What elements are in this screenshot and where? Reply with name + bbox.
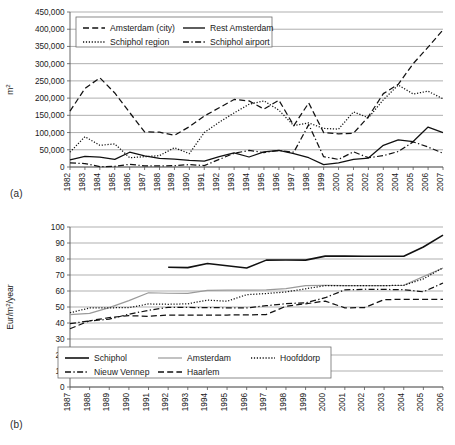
x-axis-tick-label: 2003 (376, 173, 385, 192)
x-axis-tick-label: 1994 (242, 173, 251, 192)
x-axis-tick-label: 2002 (357, 393, 366, 412)
x-axis-tick-label: 1992 (212, 173, 221, 192)
y-axis-tick-label: 100 (51, 223, 65, 232)
y-axis-tick-label: 100,000 (35, 129, 65, 138)
series-line-nieuw-vennep (70, 283, 443, 324)
panel-a-label: (a) (10, 188, 23, 199)
series-line-schiphol-airport (70, 125, 443, 167)
y-axis-tick-label: 30 (55, 335, 65, 344)
y-axis-tick-label: 0 (60, 383, 65, 392)
chart-panel-a: 050,000100,000150,000200,000250,000300,0… (0, 0, 455, 215)
legend-label: Schiphol airport (210, 37, 270, 47)
legend-label: Schiphol region (110, 37, 169, 47)
legend-label: Rest Amsterdam (210, 23, 274, 33)
x-axis-tick-label: 1994 (200, 393, 209, 412)
x-axis-tick-label: 1989 (167, 173, 176, 192)
x-axis-tick-label: 1987 (63, 393, 72, 412)
x-axis-tick-label: 1995 (220, 393, 229, 412)
svg-text:Eur/m2/year: Eur/m2/year (4, 284, 15, 330)
x-axis-tick-label: 1983 (78, 173, 87, 192)
y-axis-tick-label: 400,000 (35, 25, 65, 34)
x-axis-tick-label: 1982 (63, 173, 72, 192)
y-axis-tick-label: 150,000 (35, 111, 65, 120)
y-axis-tick-label: 300,000 (35, 60, 65, 69)
x-axis-tick-label: 1984 (93, 173, 102, 192)
x-axis-tick-label: 1990 (182, 173, 191, 192)
x-axis-tick-label: 1989 (102, 393, 111, 412)
y-axis-title: Eur/m2/year (4, 284, 15, 330)
y-axis-title: m2 (4, 84, 15, 95)
chart-a-legend: Amsterdam (city)Rest AmsterdamSchiphol r… (76, 17, 274, 47)
x-axis-tick-label: 1992 (161, 393, 170, 412)
legend-label: Nieuw Vennep (94, 367, 150, 377)
x-axis-tick-label: 2006 (421, 173, 430, 192)
chart-b-legend: SchipholAmsterdamHoofddorpNieuw VennepHa… (58, 347, 331, 378)
x-axis-tick-label: 2003 (377, 393, 386, 412)
y-axis-tick-label: 50 (55, 303, 65, 312)
y-axis-tick-label: 250,000 (35, 77, 65, 86)
x-axis-tick-label: 2000 (332, 173, 341, 192)
chart-panel-b: 0102030405060708090100198719881989199019… (0, 215, 455, 445)
y-axis-tick-label: 90 (55, 239, 65, 248)
x-axis-tick-label: 1998 (279, 393, 288, 412)
x-axis-tick-label: 1996 (272, 173, 281, 192)
y-axis-tick-label: 450,000 (35, 8, 65, 17)
x-axis-tick-label: 1995 (257, 173, 266, 192)
x-axis-tick-label: 2002 (361, 173, 370, 192)
y-axis-tick-label: 60 (55, 287, 65, 296)
x-axis-tick-label: 1999 (299, 393, 308, 412)
x-axis-tick-label: 2004 (397, 393, 406, 412)
x-axis-tick-label: 1988 (153, 173, 162, 192)
legend-label: Haarlem (187, 367, 219, 377)
series-line-schiphol (168, 235, 443, 268)
y-axis-tick-label: 0 (60, 163, 65, 172)
x-axis-tick-label: 1990 (122, 393, 131, 412)
x-axis-tick-label: 1993 (227, 173, 236, 192)
x-axis-tick-label: 1997 (259, 393, 268, 412)
x-axis-tick-label: 1988 (83, 393, 92, 412)
y-axis-tick-label: 80 (55, 255, 65, 264)
x-axis-tick-label: 1996 (240, 393, 249, 412)
y-axis-tick-label: 70 (55, 271, 65, 280)
x-axis-tick-label: 1986 (123, 173, 132, 192)
legend-label: Amsterdam (187, 353, 231, 363)
x-axis-tick-label: 2006 (436, 393, 445, 412)
y-axis-tick-label: 350,000 (35, 42, 65, 51)
x-axis-tick-label: 1998 (302, 173, 311, 192)
x-axis-tick-label: 2000 (318, 393, 327, 412)
x-axis-tick-label: 1985 (108, 173, 117, 192)
x-axis-tick-label: 2005 (416, 393, 425, 412)
svg-text:m2: m2 (4, 84, 15, 95)
y-axis-tick-label: 50,000 (39, 146, 64, 155)
x-axis-tick-label: 1991 (197, 173, 206, 192)
legend-label: Hoofddorp (280, 353, 320, 363)
x-axis-tick-label: 1993 (181, 393, 190, 412)
x-axis-tick-label: 2001 (346, 173, 355, 192)
series-line-schiphol-region (70, 85, 443, 158)
x-axis-tick-label: 1999 (317, 173, 326, 192)
x-axis-tick-label: 2004 (391, 173, 400, 192)
figure-container: 050,000100,000150,000200,000250,000300,0… (0, 0, 455, 445)
x-axis-tick-label: 1987 (138, 173, 147, 192)
y-axis-tick-label: 200,000 (35, 94, 65, 103)
panel-b-label: (b) (10, 419, 23, 430)
x-axis-tick-label: 2001 (338, 393, 347, 412)
series-line-haarlem (70, 299, 443, 328)
chart-b-svg: 0102030405060708090100198719881989199019… (0, 215, 455, 445)
chart-a-svg: 050,000100,000150,000200,000250,000300,0… (0, 0, 455, 215)
x-axis-tick-label: 1991 (142, 393, 151, 412)
x-axis-tick-label: 1997 (287, 173, 296, 192)
y-axis-tick-label: 40 (55, 319, 65, 328)
x-axis-tick-label: 2005 (406, 173, 415, 192)
x-axis-tick-label: 2007 (436, 173, 445, 192)
legend-label: Amsterdam (city) (110, 23, 175, 33)
legend-label: Schiphol (94, 353, 127, 363)
